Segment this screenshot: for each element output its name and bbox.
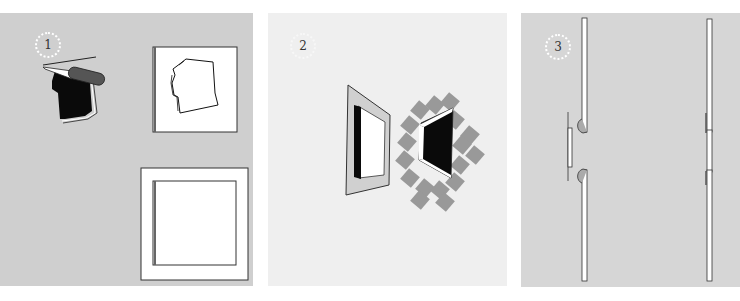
cut-line	[43, 57, 96, 65]
step-number-badge: 1	[35, 32, 61, 58]
step-number: 3	[554, 40, 562, 54]
step-3-panel: 3	[521, 13, 740, 287]
step-2-panel: 2	[268, 13, 507, 286]
section-right	[706, 19, 712, 281]
step-number-badge: 2	[290, 33, 316, 59]
step-1-panel: 1	[0, 13, 253, 286]
step-number-badge: 3	[545, 34, 571, 60]
step-number: 2	[299, 39, 307, 53]
section-left	[568, 18, 587, 281]
outlined-shape-icon	[172, 59, 218, 113]
step-number: 1	[44, 38, 52, 52]
